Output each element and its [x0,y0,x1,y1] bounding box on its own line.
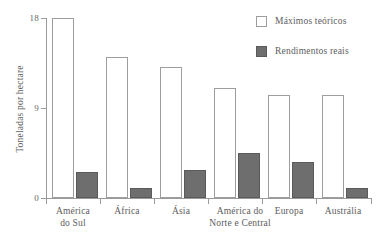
legend-label-maximos-teoricos: Máximos teóricos [275,15,347,27]
bar-group-asia [154,18,208,198]
x-tick-5 [316,199,317,204]
x-tick-0 [46,199,47,204]
bar-real-asia [184,170,206,198]
y-axis-title: Toneladas por hectare [15,34,25,184]
legend-item-rendimentos-reais[interactable]: Rendimentos reais [256,44,376,64]
x-tick-4 [262,199,263,204]
x-tick-3 [208,199,209,204]
y-tick-label-0: 0 [17,194,39,203]
x-tick-2 [154,199,155,204]
legend-label-rendimentos-reais: Rendimentos reais [275,45,349,57]
x-tick-1 [100,199,101,204]
y-tick-label-18: 18 [17,14,39,23]
legend-item-maximos-teoricos[interactable]: Máximos teóricos [256,14,376,34]
bar-real-europa [292,162,314,198]
bar-chart: 18 9 0 Toneladas por hectare [0,0,377,240]
bar-real-africa [130,188,152,198]
x-tick-6 [371,199,372,204]
bar-real-america-do-norte-e-central [238,153,260,198]
bar-max-africa [106,57,128,198]
bar-max-asia [160,67,182,198]
bar-max-america-do-norte-e-central [214,88,236,198]
bar-real-australia [346,188,368,198]
bar-real-america-do-sul [76,172,98,198]
y-tick-label-18-wrap: 18 [10,14,39,23]
bar-group-america-do-norte-e-central [208,18,262,198]
hollow-square-icon [256,16,267,27]
bar-max-europa [268,95,290,198]
x-label-line2: do Sul [41,218,105,230]
bar-group-africa [100,18,154,198]
x-axis-line [46,198,372,199]
bar-max-australia [322,95,344,198]
x-label-line1: Austrália [311,206,375,218]
bar-group-america-do-sul [46,18,100,198]
y-tick-label-0-wrap: 0 [10,194,39,203]
bar-max-america-do-sul [52,18,74,198]
x-label-australia: Austrália [311,206,375,218]
x-label-line2: Norte e Central [195,218,285,230]
filled-square-icon [256,46,267,57]
legend: Máximos teóricos Rendimentos reais [256,14,376,64]
